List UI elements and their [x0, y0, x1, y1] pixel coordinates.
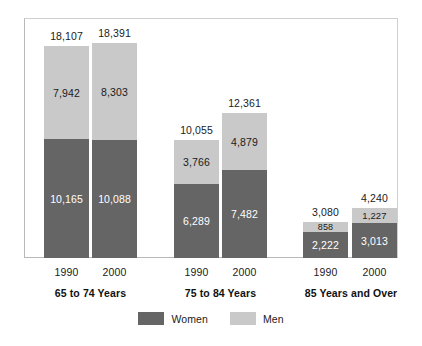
legend-item-men[interactable]: Men — [230, 312, 284, 325]
x-tick-label: 1990 — [174, 266, 219, 278]
x-tick-label: 2000 — [92, 266, 137, 278]
group-label-85plus: 85 Years and Over — [281, 287, 421, 299]
legend-item-women[interactable]: Women — [138, 312, 208, 325]
x-tick-label: 2000 — [352, 266, 397, 278]
legend-swatch-women-icon — [138, 312, 164, 325]
stacked-bar-chart: 18,107 7,942 10,165 18,391 8,303 10,088 … — [0, 0, 422, 346]
x-tick-label: 1990 — [44, 266, 89, 278]
legend-label-women: Women — [171, 313, 208, 325]
chart-legend: Women Men — [0, 312, 422, 325]
legend-swatch-men-icon — [230, 312, 256, 325]
group-label-75to84: 75 to 84 Years — [164, 287, 277, 299]
x-tick-label: 1990 — [303, 266, 348, 278]
plot-area-frame — [24, 18, 398, 258]
group-label-65to74: 65 to 74 Years — [34, 287, 147, 299]
legend-label-men: Men — [263, 313, 284, 325]
x-tick-label: 2000 — [222, 266, 267, 278]
